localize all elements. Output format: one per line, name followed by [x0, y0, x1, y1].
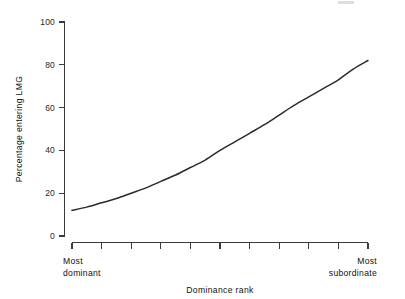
x-axis-title: Dominance rank	[186, 285, 254, 295]
y-tick-label-0: 0	[50, 231, 55, 241]
y-tick-label-40: 40	[45, 145, 55, 155]
line-chart: 100 80 60 40 20 0 Percentage entering LM…	[0, 0, 405, 299]
y-axis-ticks	[59, 22, 65, 236]
y-axis-title: Percentage entering LMG	[14, 76, 24, 182]
y-tick-label-60: 60	[45, 103, 55, 113]
x-label-right-line1: Most	[357, 256, 377, 266]
x-label-left-line1: Most	[63, 256, 83, 266]
y-tick-label-20: 20	[45, 188, 55, 198]
y-tick-label-80: 80	[45, 60, 55, 70]
x-label-right-line2: subordinate	[329, 268, 377, 278]
figure-container: 100 80 60 40 20 0 Percentage entering LM…	[0, 0, 405, 299]
y-tick-label-100: 100	[40, 17, 55, 27]
x-label-left-line2: dominant	[63, 268, 101, 278]
data-series-line	[72, 61, 368, 211]
y-axis-tick-labels: 100 80 60 40 20 0	[40, 17, 55, 241]
x-axis-ticks	[72, 243, 368, 250]
x-axis-end-labels: Most dominant Most subordinate	[63, 256, 377, 278]
